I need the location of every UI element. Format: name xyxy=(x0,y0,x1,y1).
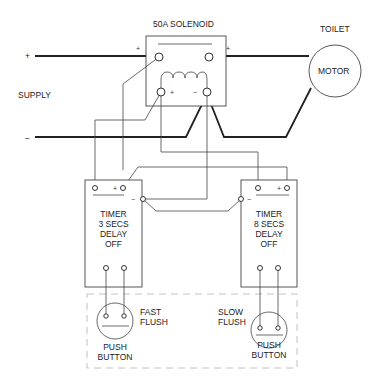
solenoid-terminal-plus-out xyxy=(205,53,213,61)
solenoid-plus-in-label: + xyxy=(136,45,140,52)
timer-right-line2: 8 SECS xyxy=(254,219,285,229)
timer-right-line1: TIMER xyxy=(256,209,282,219)
timer-left-line4: OFF xyxy=(105,239,122,249)
fast-flush-button[interactable] xyxy=(97,303,133,339)
solenoid-box xyxy=(146,36,226,106)
solenoid-coil-plus-label: + xyxy=(170,89,174,96)
timer-right-line4: OFF xyxy=(261,239,278,249)
timer-right-plus-label: + xyxy=(277,185,281,192)
fast-flush-label-1: FAST xyxy=(140,307,161,317)
timer-left-out-b xyxy=(122,266,127,271)
timer-right-minus-label: − xyxy=(247,196,251,203)
slow-push-caption-2: BUTTON xyxy=(252,350,287,360)
timer-right-terminal-plus xyxy=(285,186,290,191)
motor-label: MOTOR xyxy=(318,66,349,76)
slow-flush-label-2: FLUSH xyxy=(218,317,246,327)
timer-right-line3: DELAY xyxy=(255,229,283,239)
timer-right-out-a xyxy=(258,266,263,271)
timer-right-out-b xyxy=(276,266,281,271)
timer-left-out-a xyxy=(104,266,109,271)
timer-right-terminal-minus xyxy=(239,197,244,202)
slow-button-terminal-a xyxy=(258,326,262,330)
toilet-caption: TOILET xyxy=(320,24,350,34)
fast-push-caption-1: PUSH xyxy=(103,342,127,352)
timer-left-terminal-plus xyxy=(121,186,126,191)
fast-flush-label-2: FLUSH xyxy=(140,317,168,327)
timer-left-terminal-a xyxy=(93,186,98,191)
fast-button-terminal-a xyxy=(104,314,108,318)
slow-button-terminal-b xyxy=(276,326,280,330)
supply-minus-label: − xyxy=(25,133,30,143)
solenoid-coil-minus-label: − xyxy=(193,89,197,96)
timer-left-line3: DELAY xyxy=(100,229,128,239)
solenoid-title: 50A SOLENOID xyxy=(153,19,214,29)
timer-left-line1: TIMER xyxy=(100,209,126,219)
fast-button-terminal-b xyxy=(122,314,126,318)
timer-left-minus-label: − xyxy=(131,196,135,203)
slow-push-caption-1: PUSH xyxy=(257,340,281,350)
timer-left-line2: 3 SECS xyxy=(98,219,129,229)
wiring-diagram: + SUPPLY − 50A SOLENOID + + + − TOILET M… xyxy=(0,0,386,390)
supply-label: SUPPLY xyxy=(18,90,51,100)
solenoid-coil-terminal-minus xyxy=(203,88,211,96)
supply-plus-label: + xyxy=(25,51,30,61)
wire-minus-lower xyxy=(143,199,241,211)
timer-left-plus-label: + xyxy=(113,185,117,192)
fast-push-caption-2: BUTTON xyxy=(98,352,133,362)
solenoid-terminal-plus-in xyxy=(155,53,163,61)
timer-right-terminal-a xyxy=(256,186,261,191)
solenoid-plus-out-label: + xyxy=(226,45,230,52)
solenoid-coil-terminal-plus xyxy=(157,88,165,96)
slow-flush-label-1: SLOW xyxy=(218,307,243,317)
timer-left-terminal-minus xyxy=(141,197,146,202)
